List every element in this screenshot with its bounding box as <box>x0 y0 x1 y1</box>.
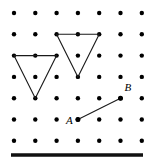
lattice-dot <box>140 32 144 36</box>
lattice-dot <box>33 11 37 15</box>
lattice-dot <box>54 11 58 15</box>
lattice-dot <box>33 75 37 79</box>
geometry-figure: AB <box>0 0 154 165</box>
lattice-dot <box>97 139 101 143</box>
lattice-dot <box>97 11 101 15</box>
lattice-dot <box>97 53 101 57</box>
lattice-dot <box>12 96 16 100</box>
point-label-b: B <box>125 82 132 93</box>
lattice-dot <box>76 53 80 57</box>
lattice-dot <box>12 11 16 15</box>
lattice-dot <box>33 139 37 143</box>
lattice-dot <box>140 11 144 15</box>
lattice-dot <box>118 75 122 79</box>
lattice-dot <box>54 96 58 100</box>
lattice-dot <box>12 75 16 79</box>
lattice-dot <box>97 117 101 121</box>
lattice-dot <box>12 117 16 121</box>
lattice-dot <box>76 11 80 15</box>
lattice-dot <box>97 96 101 100</box>
endpoint-dot-a <box>75 117 80 122</box>
lattice-dot <box>140 96 144 100</box>
lattice-dot <box>12 139 16 143</box>
lattice-dot <box>76 96 80 100</box>
lattice-dot <box>54 139 58 143</box>
lattice-dot <box>140 139 144 143</box>
lattice-dot <box>118 139 122 143</box>
lattice-dot <box>118 117 122 121</box>
lattice-dot <box>140 75 144 79</box>
triangles-layer <box>14 34 99 98</box>
lattice-dot <box>118 11 122 15</box>
endpoint-dot-b <box>118 96 123 101</box>
lattice-dot <box>140 117 144 121</box>
lattice-dot <box>76 139 80 143</box>
base-bar <box>11 153 143 157</box>
base-bar-layer <box>11 153 143 157</box>
lattice-dot <box>118 32 122 36</box>
lattice-dot <box>118 53 122 57</box>
lattice-dot <box>33 32 37 36</box>
lattice-dot <box>97 75 101 79</box>
point-label-a: A <box>66 115 73 126</box>
lattice-dot <box>12 32 16 36</box>
lattice-dot <box>140 53 144 57</box>
lattice-dot <box>54 75 58 79</box>
lattice-dot <box>54 117 58 121</box>
lattice-dot <box>33 117 37 121</box>
segment-AB <box>78 98 121 119</box>
